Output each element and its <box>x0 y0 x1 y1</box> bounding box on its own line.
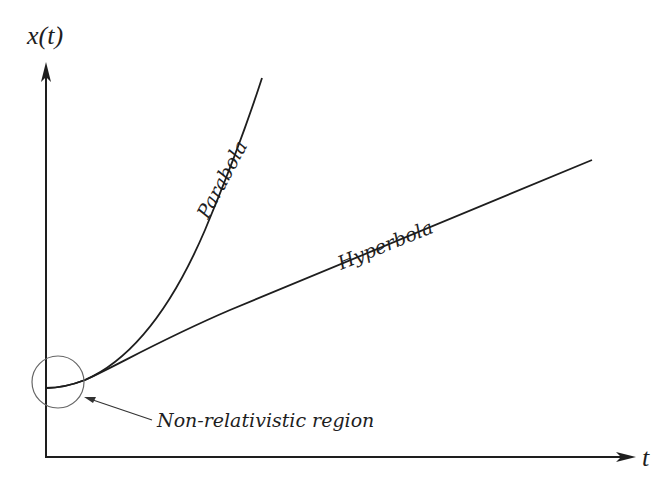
parabola-label: Parabola <box>192 137 252 223</box>
hyperbola-curve <box>46 160 592 388</box>
parabola-curve <box>46 78 262 388</box>
non-relativistic-region-circle <box>32 356 84 408</box>
hyperbolic-motion-diagram: x(t) t Parabola Hyperbola Non-relativist… <box>0 0 670 495</box>
region-pointer-line <box>90 399 152 420</box>
x-axis-label: t <box>642 443 650 472</box>
region-pointer-arrow-icon <box>84 397 96 403</box>
y-axis-label: x(t) <box>26 21 63 50</box>
non-relativistic-region-label: Non-relativistic region <box>156 409 374 431</box>
hyperbola-label: Hyperbola <box>333 216 436 275</box>
